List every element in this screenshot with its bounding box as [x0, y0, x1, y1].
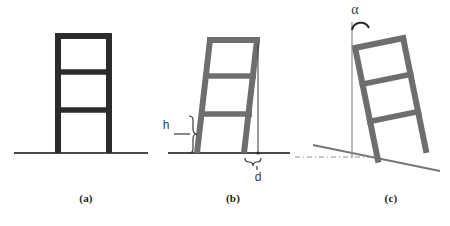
- figure-container: h d α (a) (b) (c): [0, 0, 450, 226]
- panel-b-left-column: [197, 40, 210, 153]
- panel-label-c: (c): [371, 192, 411, 204]
- panel-c-beam-level-1: [367, 111, 421, 122]
- rotation-angle-arc: [352, 23, 369, 30]
- rotation-angle-label: α: [345, 2, 365, 18]
- panel-b-group: [168, 40, 290, 170]
- panel-c-frame: [352, 36, 430, 164]
- panel-a-group: [14, 33, 148, 153]
- panel-c-beam-level-2: [360, 74, 414, 85]
- storey-height-label: h: [156, 118, 176, 132]
- drift-displacement-label: d: [248, 170, 268, 184]
- panel-label-b: (b): [213, 192, 253, 204]
- panel-c-right-column: [403, 36, 427, 153]
- panel-b-right-column: [244, 40, 257, 153]
- panel-label-a: (a): [66, 192, 106, 204]
- panel-c-roof-beam: [352, 38, 406, 49]
- drift-brace: [245, 158, 261, 166]
- panel-b-plumb-foot-dot: [256, 151, 259, 154]
- panel-c-group: [295, 22, 440, 171]
- panel-c-left-column: [355, 46, 379, 163]
